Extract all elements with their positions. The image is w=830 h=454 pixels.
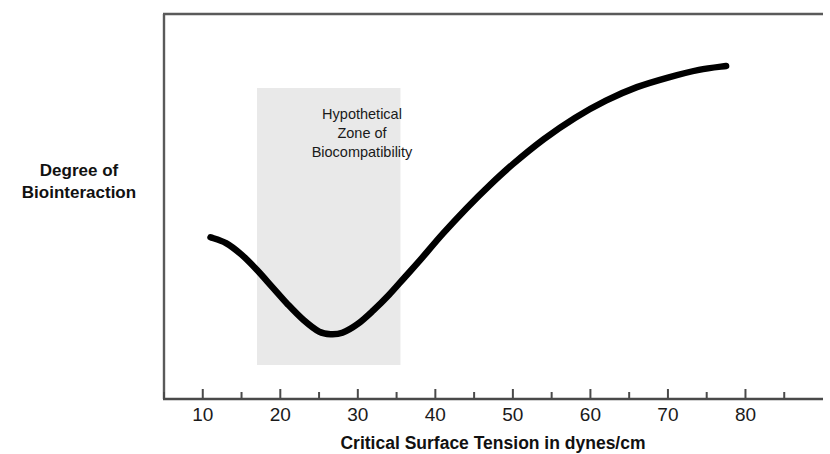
x-axis-tick-label: 10	[183, 404, 223, 426]
x-axis-tick-label: 70	[648, 404, 688, 426]
x-axis-tick-label: 40	[415, 404, 455, 426]
x-axis-title: Critical Surface Tension in dynes/cm	[163, 433, 823, 454]
zone-label-line-1: Hypothetical	[282, 105, 442, 124]
zone-label-line-3: Biocompatibility	[282, 143, 442, 162]
y-axis-title-line-2: Biointeraction	[0, 182, 158, 204]
x-axis-tick-label: 20	[260, 404, 300, 426]
y-axis-title-line-1: Degree of	[0, 160, 158, 182]
x-axis-tick-label: 60	[570, 404, 610, 426]
x-axis-tick-label: 80	[725, 404, 765, 426]
x-axis-tick-label: 50	[493, 404, 533, 426]
x-axis-ticks	[164, 389, 784, 399]
x-axis-tick-label: 30	[338, 404, 378, 426]
hypothetical-zone-label: Hypothetical Zone of Biocompatibility	[282, 105, 442, 162]
y-axis-title: Degree of Biointeraction	[0, 160, 158, 204]
zone-label-line-2: Zone of	[282, 124, 442, 143]
